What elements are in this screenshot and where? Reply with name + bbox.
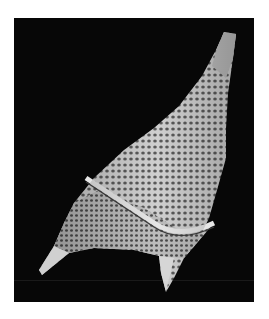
scan-line-artifact — [14, 280, 254, 281]
specimen-svg — [14, 18, 254, 302]
micrograph-panel — [14, 18, 254, 302]
